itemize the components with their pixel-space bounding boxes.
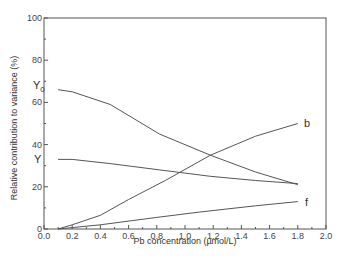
x-tick-label: 1.8 bbox=[292, 231, 305, 241]
line-chart: 0.00.20.40.60.81.01.21.41.61.82.00204060… bbox=[0, 0, 349, 263]
label-f: f bbox=[305, 196, 309, 208]
label-y: Y bbox=[34, 153, 42, 165]
label-b: b bbox=[304, 117, 310, 129]
y-tick-label: 40 bbox=[32, 140, 42, 150]
x-tick-label: 2.0 bbox=[320, 231, 333, 241]
y-axis-label: Relative contribution to variance (%) bbox=[9, 56, 19, 201]
series-line-f bbox=[58, 202, 298, 229]
label-y0: Y0 bbox=[33, 79, 45, 94]
x-axis-label: Pb concentration (µmol/L) bbox=[133, 236, 236, 246]
y-tick-label: 0 bbox=[37, 224, 42, 234]
series-line-b bbox=[58, 124, 298, 230]
x-tick-label: 1.4 bbox=[235, 231, 248, 241]
y-tick-label: 60 bbox=[32, 97, 42, 107]
series-line-y0 bbox=[58, 90, 298, 185]
series-labels: Y0 Y b f bbox=[33, 79, 310, 208]
y-tick-label: 80 bbox=[32, 55, 42, 65]
y-tick-label: 100 bbox=[27, 13, 42, 23]
x-tick-label: 0.4 bbox=[94, 231, 107, 241]
plot-frame bbox=[44, 18, 326, 229]
x-tick-label: 0.2 bbox=[66, 231, 79, 241]
x-tick-label: 1.6 bbox=[263, 231, 276, 241]
y-tick-label: 20 bbox=[32, 182, 42, 192]
series-line-y bbox=[58, 159, 298, 183]
plot-lines bbox=[58, 90, 298, 229]
